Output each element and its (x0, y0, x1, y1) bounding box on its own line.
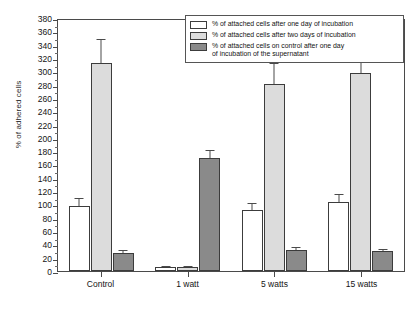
y-axis-tick-mark (53, 180, 58, 181)
bar[interactable] (199, 158, 220, 271)
bar[interactable] (91, 63, 112, 271)
y-axis-tick-label: 20 (43, 254, 58, 264)
x-axis-tick-mark (101, 271, 102, 277)
legend-item-label: % of attached cells after two days of in… (212, 31, 356, 39)
y-axis-tick-label: 160 (38, 160, 58, 170)
y-axis-minor-tick (55, 226, 58, 227)
y-axis-tick-label: 60 (43, 227, 58, 237)
y-axis-tick-mark (53, 166, 58, 167)
y-axis-tick-mark (53, 127, 58, 128)
y-axis-minor-tick (55, 266, 58, 267)
bar[interactable] (264, 84, 285, 271)
y-axis-tick-mark (53, 47, 58, 48)
bar[interactable] (155, 267, 176, 271)
y-axis-tick-label: 100 (38, 200, 58, 210)
bar-slot (155, 20, 176, 271)
y-axis-minor-tick (55, 107, 58, 108)
x-axis-tick-label: Control (57, 279, 144, 289)
y-axis-tick-label: 0 (47, 267, 58, 277)
legend-item: % of attached cells on control after one… (190, 42, 398, 58)
y-axis-minor-tick (55, 67, 58, 68)
y-axis-tick-mark (53, 233, 58, 234)
y-axis-tick-label: 40 (43, 240, 58, 250)
light-gray-swatch-icon (190, 32, 207, 40)
bar[interactable] (242, 210, 263, 271)
bar[interactable] (350, 73, 371, 271)
y-axis-tick-mark (53, 206, 58, 207)
legend-item-label: % of attached cells on control after one… (212, 42, 344, 58)
y-axis-tick-mark (53, 100, 58, 101)
x-axis-tick-label: 15 watts (318, 279, 405, 289)
legend: % of attached cells after one day of inc… (185, 15, 404, 63)
y-axis-tick-mark (53, 260, 58, 261)
y-axis-tick-label: 300 (38, 67, 58, 77)
x-axis-tick-mark (274, 271, 275, 277)
y-axis-tick-label: 360 (38, 27, 58, 37)
y-axis-minor-tick (55, 53, 58, 54)
y-axis-tick-label: 140 (38, 174, 58, 184)
y-axis-tick-label: 260 (38, 94, 58, 104)
y-axis-minor-tick (55, 173, 58, 174)
y-axis-tick-mark (53, 60, 58, 61)
x-axis-tick-mark (188, 271, 189, 277)
bar[interactable] (113, 253, 134, 271)
y-axis-minor-tick (55, 120, 58, 121)
y-axis-minor-tick (55, 213, 58, 214)
y-axis-minor-tick (55, 240, 58, 241)
y-axis-tick-mark (53, 87, 58, 88)
y-axis-title: % of adhered cells (14, 45, 23, 185)
bar-slot (113, 20, 134, 271)
y-axis-minor-tick (55, 93, 58, 94)
y-axis-tick-label: 340 (38, 41, 58, 51)
x-axis-labels: Control1 watt5 watts15 watts (57, 279, 405, 289)
y-axis-minor-tick (55, 27, 58, 28)
y-axis-minor-tick (55, 40, 58, 41)
y-axis-minor-tick (55, 253, 58, 254)
legend-item: % of attached cells after one day of inc… (190, 20, 398, 29)
bar-slot (69, 20, 90, 271)
y-axis-minor-tick (55, 160, 58, 161)
y-axis-tick-label: 320 (38, 54, 58, 64)
y-axis-tick-label: 280 (38, 81, 58, 91)
bar-chart: % of adhered cells 020406080100120140160… (0, 0, 411, 314)
y-axis-minor-tick (55, 200, 58, 201)
white-swatch-icon (190, 21, 207, 29)
y-axis-tick-mark (53, 140, 58, 141)
bar[interactable] (372, 251, 393, 271)
y-axis-minor-tick (55, 147, 58, 148)
y-axis-tick-label: 380 (38, 14, 58, 24)
x-axis-tick-mark (361, 271, 362, 277)
y-axis-tick-label: 180 (38, 147, 58, 157)
x-axis-tick-label: 1 watt (144, 279, 231, 289)
x-axis-tick-label: 5 watts (231, 279, 318, 289)
legend-item: % of attached cells after two days of in… (190, 31, 398, 40)
bar[interactable] (286, 250, 307, 271)
y-axis-tick-mark (53, 193, 58, 194)
y-axis-tick-label: 80 (43, 214, 58, 224)
y-axis-minor-tick (55, 186, 58, 187)
y-axis-tick-mark (53, 113, 58, 114)
y-axis-tick-label: 240 (38, 107, 58, 117)
y-axis-tick-mark (53, 273, 58, 274)
y-axis-tick-mark (53, 33, 58, 34)
bar[interactable] (328, 202, 349, 271)
y-axis-minor-tick (55, 133, 58, 134)
y-axis-minor-tick (55, 80, 58, 81)
bar-group (58, 20, 145, 271)
dark-gray-swatch-icon (190, 43, 207, 51)
bar-slot (91, 20, 112, 271)
y-axis-tick-label: 220 (38, 121, 58, 131)
y-axis-tick-label: 200 (38, 134, 58, 144)
y-axis-tick-mark (53, 246, 58, 247)
bar[interactable] (69, 206, 90, 271)
y-axis-tick-mark (53, 73, 58, 74)
y-axis-tick-label: 120 (38, 187, 58, 197)
y-axis-tick-mark (53, 220, 58, 221)
y-axis-tick-mark (53, 20, 58, 21)
legend-item-label: % of attached cells after one day of inc… (212, 20, 353, 28)
y-axis-tick-mark (53, 153, 58, 154)
